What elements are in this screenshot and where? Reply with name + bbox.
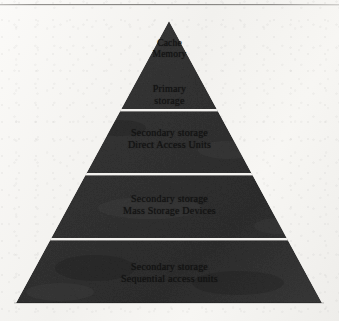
tier-divider-4-5 [0, 238, 339, 240]
pyramid-body [16, 21, 322, 303]
storage-hierarchy-pyramid-diagram: Cache Memory Primary storage Secondary s… [0, 0, 339, 321]
scanned-page: Cache Memory Primary storage Secondary s… [0, 0, 339, 321]
tier-divider-3-4 [0, 173, 339, 175]
tier-divider-2-3 [0, 109, 339, 111]
pyramid-svg [0, 0, 339, 321]
pyramid-base-edge [14, 302, 324, 303]
